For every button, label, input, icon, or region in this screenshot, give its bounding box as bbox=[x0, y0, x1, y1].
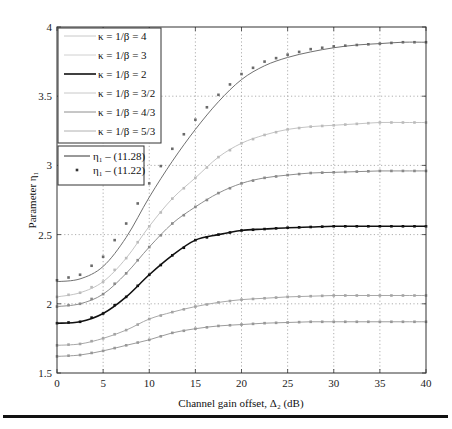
series-marker bbox=[252, 323, 255, 326]
y-tick-label: 1.5 bbox=[38, 367, 52, 379]
series-marker bbox=[240, 73, 243, 76]
x-tick-label: 10 bbox=[144, 377, 156, 389]
series-marker bbox=[206, 199, 209, 202]
x-tick-label: 35 bbox=[374, 377, 386, 389]
series-marker bbox=[332, 225, 335, 228]
series-marker bbox=[79, 320, 82, 323]
series-marker bbox=[90, 286, 93, 289]
series-marker bbox=[252, 228, 255, 231]
series-marker bbox=[402, 121, 405, 124]
series-marker bbox=[79, 291, 82, 294]
series-marker bbox=[379, 121, 382, 124]
series-marker bbox=[148, 246, 151, 249]
series-marker bbox=[194, 206, 197, 209]
series-marker bbox=[332, 320, 335, 323]
series-marker bbox=[379, 320, 382, 323]
series-marker bbox=[67, 304, 70, 307]
series-marker bbox=[321, 225, 324, 228]
series-marker bbox=[309, 320, 312, 323]
series-marker bbox=[321, 295, 324, 298]
series-marker bbox=[90, 264, 93, 267]
y-tick-label: 2.5 bbox=[38, 229, 52, 241]
series-marker bbox=[229, 324, 232, 327]
series-marker bbox=[332, 171, 335, 174]
series-marker bbox=[344, 44, 347, 47]
series-marker bbox=[148, 182, 151, 185]
bottom-rule bbox=[3, 415, 448, 418]
series-marker bbox=[263, 177, 266, 180]
series-marker bbox=[240, 323, 243, 326]
series-marker bbox=[402, 41, 405, 44]
series-marker bbox=[344, 123, 347, 126]
series-marker bbox=[413, 294, 416, 297]
series-marker bbox=[240, 182, 243, 185]
series-marker bbox=[194, 118, 197, 121]
series-marker bbox=[229, 149, 232, 152]
series-marker bbox=[356, 44, 359, 47]
series-marker bbox=[402, 225, 405, 228]
series-marker bbox=[332, 45, 335, 48]
y-axis-label: Parameter η₁ bbox=[26, 171, 38, 228]
series-marker bbox=[229, 187, 232, 190]
series-marker bbox=[102, 312, 105, 315]
series-marker bbox=[79, 354, 82, 357]
series-marker bbox=[229, 300, 232, 303]
series-marker bbox=[379, 170, 382, 173]
series-marker bbox=[275, 175, 278, 178]
series-marker bbox=[229, 83, 232, 86]
series-marker bbox=[113, 239, 116, 242]
x-tick-label: 0 bbox=[54, 377, 60, 389]
x-tick-label: 40 bbox=[421, 377, 433, 389]
series-marker bbox=[298, 51, 301, 54]
series-marker bbox=[183, 329, 186, 332]
series-marker bbox=[286, 53, 289, 56]
series-marker bbox=[206, 236, 209, 239]
series-marker bbox=[67, 276, 70, 279]
series-marker bbox=[344, 225, 347, 228]
series-marker bbox=[367, 170, 370, 173]
series-marker bbox=[125, 344, 128, 347]
series-marker bbox=[67, 321, 70, 324]
series-marker bbox=[183, 214, 186, 217]
series-marker bbox=[379, 42, 382, 45]
series-marker bbox=[125, 257, 128, 260]
series-marker bbox=[113, 282, 116, 285]
series-marker bbox=[102, 293, 105, 296]
series-marker bbox=[240, 298, 243, 301]
series-marker bbox=[136, 323, 139, 326]
series-marker bbox=[90, 340, 93, 343]
series-marker bbox=[183, 246, 186, 249]
series-marker bbox=[159, 335, 162, 338]
series-marker bbox=[217, 325, 220, 328]
series-marker bbox=[263, 297, 266, 300]
series-marker bbox=[356, 294, 359, 297]
y-tick-label: 3.5 bbox=[38, 90, 52, 102]
series-marker bbox=[217, 94, 220, 97]
series-marker bbox=[275, 227, 278, 230]
series-marker bbox=[344, 294, 347, 297]
series-marker bbox=[206, 326, 209, 329]
series-marker bbox=[413, 41, 416, 44]
series-marker bbox=[113, 269, 116, 272]
series-marker bbox=[309, 226, 312, 229]
series-marker bbox=[90, 352, 93, 355]
series-marker bbox=[148, 318, 151, 321]
series-marker bbox=[298, 173, 301, 176]
series-marker bbox=[263, 322, 266, 325]
series-marker bbox=[252, 298, 255, 301]
series-marker bbox=[321, 171, 324, 174]
legend-equations: η₁ – (11.28)η₁ – (11.22) bbox=[58, 146, 146, 185]
series-marker bbox=[332, 294, 335, 297]
series-marker bbox=[79, 273, 82, 276]
series-marker bbox=[390, 320, 393, 323]
series-marker bbox=[390, 42, 393, 45]
series-marker bbox=[344, 171, 347, 174]
series-marker bbox=[356, 225, 359, 228]
x-tick-label: 15 bbox=[190, 377, 202, 389]
series-marker bbox=[275, 322, 278, 325]
series-marker bbox=[321, 125, 324, 128]
y-tick-label: 3 bbox=[47, 159, 53, 171]
series-marker bbox=[159, 165, 162, 168]
series-marker bbox=[263, 60, 266, 63]
series-marker bbox=[263, 228, 266, 231]
